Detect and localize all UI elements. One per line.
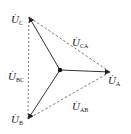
phasor-ua xyxy=(60,70,110,72)
neutral-point xyxy=(58,68,62,72)
phasor-uc xyxy=(29,17,60,70)
label-ub: ·UB xyxy=(11,114,23,126)
phasor-uab xyxy=(28,72,110,119)
label-uca: ·UCA xyxy=(72,37,88,49)
phasor-ubc xyxy=(28,17,29,119)
phasor-ub xyxy=(28,70,60,119)
label-ua: ·UA xyxy=(108,75,120,87)
label-ubc: ·UBC xyxy=(8,71,24,83)
label-uc: ·UC xyxy=(11,14,23,26)
phasor-uca xyxy=(29,17,110,72)
label-uab: ·UAB xyxy=(72,101,88,113)
